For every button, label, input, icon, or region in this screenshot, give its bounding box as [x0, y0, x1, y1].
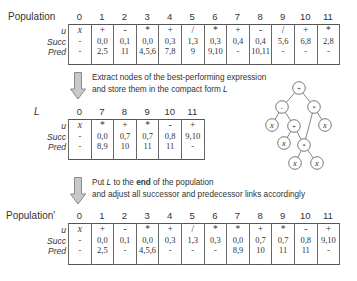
column-index: 6 — [204, 210, 227, 221]
tree-node: x — [266, 119, 279, 132]
tree-node: x — [311, 157, 324, 170]
column-index: 8 — [249, 210, 272, 221]
table-column: *0,3- — [204, 224, 227, 265]
cell-u: * — [227, 224, 249, 235]
table-column: -0,1- — [114, 224, 137, 265]
cell-u: - — [295, 224, 317, 235]
cell-u: + — [159, 224, 181, 235]
table-column: *0,08,9 — [227, 224, 250, 265]
cell-succ: 0,1 — [114, 235, 136, 246]
row-label-pred: Pred — [26, 246, 66, 257]
cell-u: - — [114, 224, 136, 235]
cell-pred: 8,9 — [227, 245, 249, 256]
column-index: 4 — [158, 210, 181, 221]
cell-pred: - — [114, 245, 136, 256]
table-column: +0,710 — [249, 224, 272, 265]
cell-pred: - — [182, 245, 204, 256]
tree-node: x — [278, 137, 291, 150]
tree-node: + — [288, 120, 301, 133]
down-arrow-icon — [70, 177, 86, 205]
table-column: x-- — [69, 224, 92, 265]
cell-u: x — [69, 224, 91, 235]
row-label-u: u — [26, 225, 66, 236]
cell-succ: 1,3 — [182, 235, 204, 246]
cell-succ: 9,10 — [318, 235, 340, 246]
tree-node-label: x — [269, 120, 274, 130]
cell-pred: 11 — [272, 245, 294, 256]
tree-node: * — [298, 139, 311, 152]
table-column: *0,04,5,6 — [136, 224, 159, 265]
step2-description: Put L to the end of the population and a… — [92, 177, 305, 200]
column-index: 5 — [181, 210, 204, 221]
column-index: 10 — [294, 210, 317, 221]
cell-u: * — [272, 224, 294, 235]
tree-node-label: x — [281, 138, 286, 148]
table-column: +0,3- — [159, 224, 182, 265]
cell-pred: 11 — [295, 245, 317, 256]
tree-node-label: * — [302, 142, 306, 150]
table-column: *0,711 — [272, 224, 295, 265]
cell-u: + — [318, 224, 340, 235]
cell-pred: - — [205, 245, 227, 256]
tree-node-label: + — [297, 85, 301, 93]
column-index: 3 — [136, 210, 159, 221]
column-index: 0 — [68, 210, 91, 221]
tree-node-label: * — [312, 104, 316, 112]
population-prime-row-labels: u Succ Pred — [26, 225, 66, 257]
cell-succ: 0,0 — [137, 235, 159, 246]
cell-succ: 0,0 — [227, 235, 249, 246]
tree-node-label: x — [314, 158, 319, 168]
tree-node-label: x — [322, 120, 327, 130]
table-column: +0,02,5 — [91, 224, 114, 265]
cell-pred: - — [159, 245, 181, 256]
cell-succ: 0,7 — [250, 235, 272, 246]
cell-pred: 2,5 — [92, 245, 114, 256]
population-prime-table: x--+0,02,5-0,1-*0,04,5,6+0,3-/1,3-*0,3-*… — [68, 223, 340, 265]
tree-node: x — [289, 157, 302, 170]
tree-node-label: x — [292, 158, 297, 168]
step2-line2: and adjust all successor and predecessor… — [92, 189, 305, 201]
tree-node: x — [319, 119, 332, 132]
column-index: 9 — [271, 210, 294, 221]
cell-pred: - — [69, 245, 91, 256]
cell-u: + — [92, 224, 114, 235]
tree-node-label: + — [292, 123, 296, 131]
tree-node: + — [293, 82, 306, 95]
column-index: 1 — [91, 210, 114, 221]
column-index: 7 — [226, 210, 249, 221]
cell-pred: - — [318, 245, 340, 256]
cell-pred: 4,5,6 — [137, 245, 159, 256]
cell-succ: - — [69, 235, 91, 246]
column-index: 2 — [113, 210, 136, 221]
cell-succ: 0,7 — [272, 235, 294, 246]
cell-succ: 0,3 — [159, 235, 181, 246]
cell-succ: 0,8 — [295, 235, 317, 246]
table-column: +9,10- — [317, 224, 340, 265]
cell-u: + — [250, 224, 272, 235]
cell-u: * — [205, 224, 227, 235]
population-prime-index-row: 01234567891011 — [68, 210, 339, 221]
cell-u: / — [182, 224, 204, 235]
row-label-succ: Succ — [26, 236, 66, 247]
tree-node: * — [308, 101, 321, 114]
cell-succ: 0,3 — [205, 235, 227, 246]
table-column: -0,811 — [294, 224, 317, 265]
cell-succ: 0,0 — [92, 235, 114, 246]
tree-node: - — [276, 101, 289, 114]
step2-line1: Put L to the end of the population — [92, 177, 305, 189]
column-index: 11 — [317, 210, 340, 221]
table-column: /1,3- — [181, 224, 204, 265]
cell-pred: 10 — [250, 245, 272, 256]
population-prime-title: Population' — [6, 210, 55, 221]
cell-u: * — [137, 224, 159, 235]
